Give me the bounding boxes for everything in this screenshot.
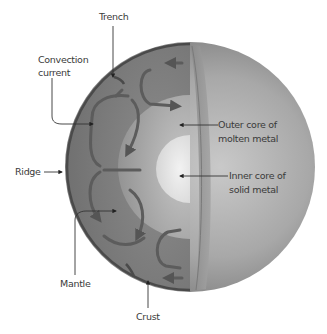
crust-label: Crust bbox=[136, 311, 160, 323]
convection-current-label: Convection current bbox=[38, 54, 88, 79]
earth-structure-diagram bbox=[0, 0, 327, 334]
ridge-label: Ridge bbox=[15, 166, 41, 178]
trench-label: Trench bbox=[99, 11, 128, 23]
outer-core-label-line1: Outer core of bbox=[218, 119, 278, 131]
outer-core-label: Outer core of molten metal bbox=[218, 119, 278, 145]
convection-label-line1: Convection bbox=[38, 54, 88, 66]
inner-core-label-line1: Inner core of bbox=[229, 170, 285, 182]
inner-core-label: Inner core of solid metal bbox=[229, 170, 285, 196]
outer-core-label-line2: molten metal bbox=[218, 133, 278, 145]
inner-core-label-line2: solid metal bbox=[229, 184, 285, 196]
mantle-label: Mantle bbox=[60, 278, 90, 290]
convection-label-line2: current bbox=[38, 67, 88, 79]
